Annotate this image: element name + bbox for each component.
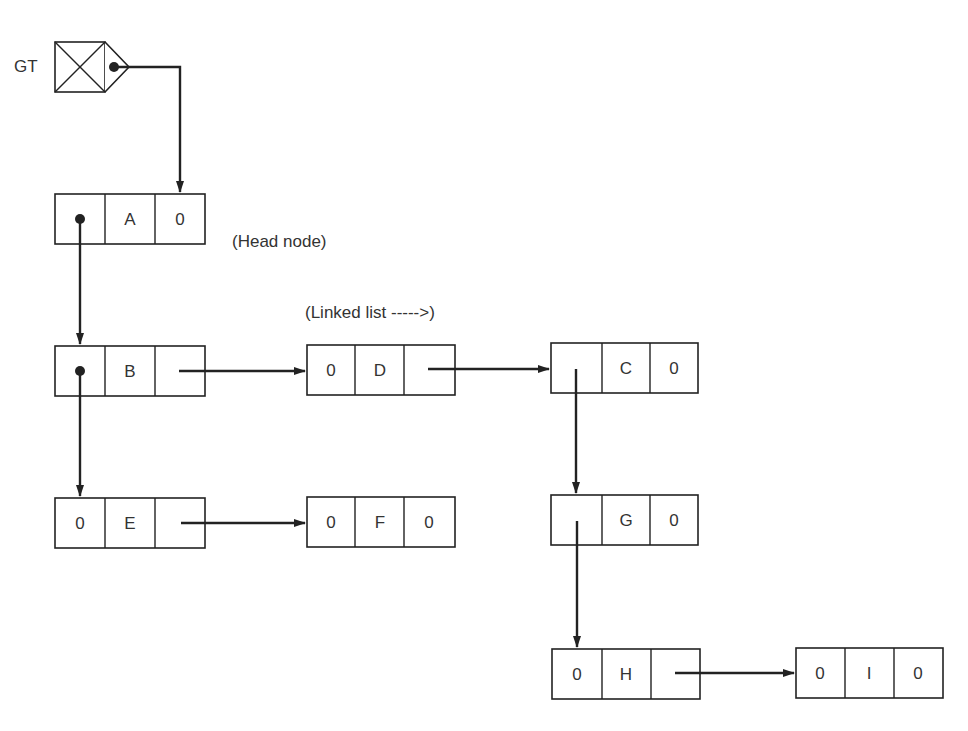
node-e-down: 0 — [75, 514, 84, 533]
node-f-down: 0 — [326, 513, 335, 532]
gt-label: GT — [14, 57, 38, 76]
node-c: C 0 — [551, 343, 698, 393]
node-d-down: 0 — [326, 361, 335, 380]
node-g-link: 0 — [669, 511, 678, 530]
node-i-down: 0 — [815, 664, 824, 683]
node-f: 0 F 0 — [307, 497, 455, 547]
linked-list-label: (Linked list ----->) — [305, 303, 435, 322]
node-c-data: C — [620, 359, 632, 378]
node-d-data: D — [374, 361, 386, 380]
node-a-link: 0 — [175, 210, 184, 229]
node-c-link: 0 — [669, 359, 678, 378]
gt-pointer: GT — [14, 42, 180, 192]
node-i-data: I — [867, 664, 872, 683]
node-g-data: G — [619, 511, 632, 530]
gt-to-a-arrow — [114, 67, 180, 192]
node-h-down: 0 — [572, 665, 581, 684]
node-f-data: F — [375, 513, 385, 532]
node-a-data: A — [124, 210, 136, 229]
node-f-link: 0 — [424, 513, 433, 532]
node-g: G 0 — [551, 495, 698, 545]
list-diagram: GT A 0 (Head node) (Linked list ----->) … — [0, 0, 968, 731]
node-i-link: 0 — [913, 664, 922, 683]
node-b-data: B — [124, 362, 135, 381]
node-e-data: E — [124, 514, 135, 533]
node-h-data: H — [620, 665, 632, 684]
node-a: A 0 — [55, 194, 205, 244]
head-node-label: (Head node) — [232, 232, 327, 251]
node-i: 0 I 0 — [796, 648, 943, 698]
